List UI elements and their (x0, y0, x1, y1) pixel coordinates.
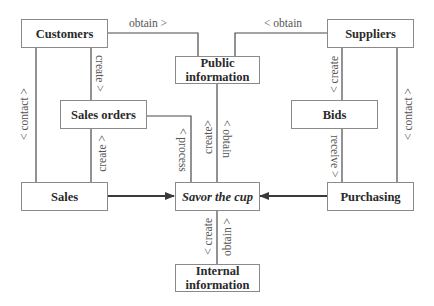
node-internal-information-line1: Internal (196, 264, 240, 278)
node-internal-information[interactable]: Internal information (175, 264, 260, 292)
edge-label-customers-public: obtain > (129, 17, 167, 29)
node-bids[interactable]: Bids (291, 100, 378, 129)
edge-label-salesorders-savor: < process (177, 128, 189, 172)
edge-label-suppliers-purchasing: < contact > (402, 88, 414, 140)
node-customers[interactable]: Customers (21, 19, 108, 48)
node-internal-information-line2: information (186, 278, 250, 292)
node-sales-orders[interactable]: Sales orders (60, 100, 147, 129)
node-purchasing[interactable]: Purchasing (327, 182, 414, 211)
edge-label-public-savor-create: create> (202, 120, 214, 154)
node-savor-the-cup-label: Savor the cup (182, 190, 253, 204)
edge-label-salesorders-sales: create > (96, 135, 108, 172)
edge-label-customers-sales: < contact > (18, 88, 30, 140)
node-public-information-line1: Public (200, 56, 234, 70)
edge-label-public-savor-obtain: < obtain (221, 120, 233, 158)
node-suppliers[interactable]: Suppliers (327, 19, 414, 48)
node-sales[interactable]: Sales (21, 182, 108, 211)
node-customers-label: Customers (36, 27, 94, 41)
edge-label-customers-salesorders: create > (94, 55, 106, 92)
node-bids-label: Bids (323, 108, 347, 122)
node-public-information[interactable]: Public information (175, 56, 260, 84)
node-savor-the-cup[interactable]: Savor the cup (175, 182, 260, 211)
node-purchasing-label: Purchasing (340, 190, 400, 204)
node-suppliers-label: Suppliers (345, 27, 396, 41)
edge-label-savor-internal-obtain: obtain > (221, 218, 233, 256)
edge-label-savor-internal-create: < create (202, 218, 214, 255)
node-sales-orders-label: Sales orders (71, 108, 136, 122)
node-public-information-line2: information (186, 70, 250, 84)
node-sales-label: Sales (51, 190, 78, 204)
edge-label-bids-purchasing: receive > (329, 135, 341, 178)
edge-label-suppliers-public: < obtain (264, 17, 302, 29)
edge-label-suppliers-bids: < create (328, 56, 340, 93)
